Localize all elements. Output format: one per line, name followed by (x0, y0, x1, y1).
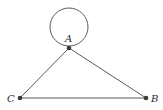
edge-a-c (20, 48, 69, 98)
vertex-b (144, 96, 149, 101)
edge-a-b (69, 48, 146, 98)
vertex-label-b: B (150, 93, 158, 104)
graph-diagram: A B C (0, 0, 163, 110)
vertex-a (67, 46, 72, 51)
vertex-label-a: A (64, 33, 72, 44)
vertex-c (18, 96, 23, 101)
vertex-label-c: C (7, 93, 15, 104)
